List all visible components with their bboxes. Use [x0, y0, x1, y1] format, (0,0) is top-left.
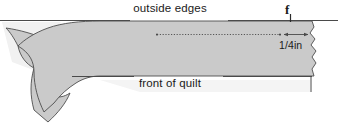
front-of-quilt-label: front of quilt [0, 78, 340, 90]
quarter-inch-measurement-label: 1/4in [279, 40, 302, 51]
quilt-binding-diagram: outside edges front of quilt 1/4in f [0, 0, 340, 132]
diagram-canvas [0, 0, 340, 132]
fold-marker-label: f [285, 3, 289, 16]
